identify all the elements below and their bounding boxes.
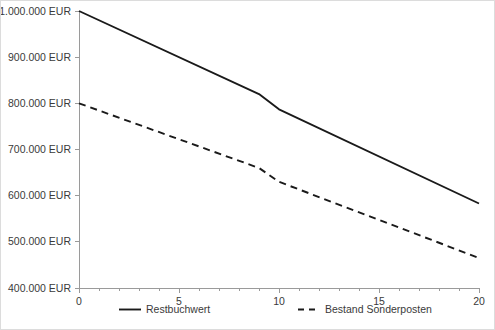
y-axis-tick-marks	[75, 11, 79, 288]
y-axis-tick-label: 1.000.000 EUR	[1, 5, 71, 17]
series-line-1	[79, 11, 479, 204]
legend-item-label: Bestand Sonderposten	[325, 303, 432, 315]
chart-canvas: 400.000 EUR500.000 EUR600.000 EUR700.000…	[1, 1, 495, 330]
x-axis-tick-label: 20	[473, 295, 485, 307]
y-axis-tick-label: 900.000 EUR	[8, 51, 71, 63]
series-layer	[79, 11, 479, 258]
y-axis-tick-label: 800.000 EUR	[8, 97, 71, 109]
series-line-2	[79, 103, 479, 258]
x-axis-tick-label: 0	[76, 295, 82, 307]
x-axis-tick-label: 10	[273, 295, 285, 307]
y-axis-tick-label: 600.000 EUR	[8, 189, 71, 201]
y-axis-tick-label: 500.000 EUR	[8, 235, 71, 247]
y-axis-tick-label: 700.000 EUR	[8, 143, 71, 155]
line-chart: 400.000 EUR500.000 EUR600.000 EUR700.000…	[0, 0, 495, 330]
legend-item-label: Restbuchwert	[146, 303, 210, 315]
y-axis-tick-label: 400.000 EUR	[8, 282, 71, 294]
y-axis-tick-labels: 400.000 EUR500.000 EUR600.000 EUR700.000…	[1, 5, 71, 294]
